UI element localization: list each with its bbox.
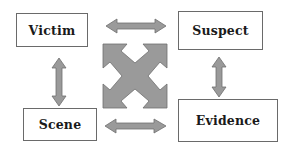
double-arrow-icon-suspect-evidence	[212, 57, 226, 97]
node-label: Evidence	[196, 113, 261, 128]
diagram-canvas: Victim Suspect Scene Evidence	[0, 0, 293, 147]
node-victim: Victim	[16, 13, 88, 47]
double-arrow-icon-victim-scene	[52, 58, 66, 106]
node-evidence: Evidence	[178, 99, 278, 142]
node-label: Suspect	[192, 23, 249, 38]
four-way-diagonal-arrow-icon	[103, 44, 167, 108]
node-scene: Scene	[23, 108, 97, 141]
node-label: Scene	[39, 117, 82, 132]
double-arrow-icon-victim-suspect	[106, 19, 166, 33]
double-arrow-icon-scene-evidence	[105, 119, 166, 133]
node-suspect: Suspect	[178, 11, 263, 50]
node-label: Victim	[29, 23, 76, 38]
